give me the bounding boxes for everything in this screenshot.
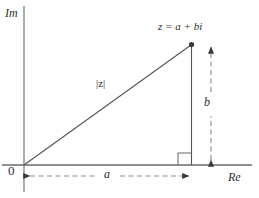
imaginary-axis-label: Im [5,7,18,19]
modulus-label: |z| [96,78,105,89]
point-z-label: z = a + bi [158,21,202,32]
imaginary-part-label: b [204,96,210,108]
real-axis-label: Re [228,171,241,183]
argand-diagram-figure: Im Re 0 z = a + bi |z| a b [0,0,259,198]
argand-diagram-canvas [0,0,259,198]
origin-label: 0 [8,164,15,177]
right-angle-marker-icon [178,153,191,165]
point-z-marker [189,42,194,47]
real-part-label: a [104,168,110,180]
modulus-segment [24,45,191,165]
